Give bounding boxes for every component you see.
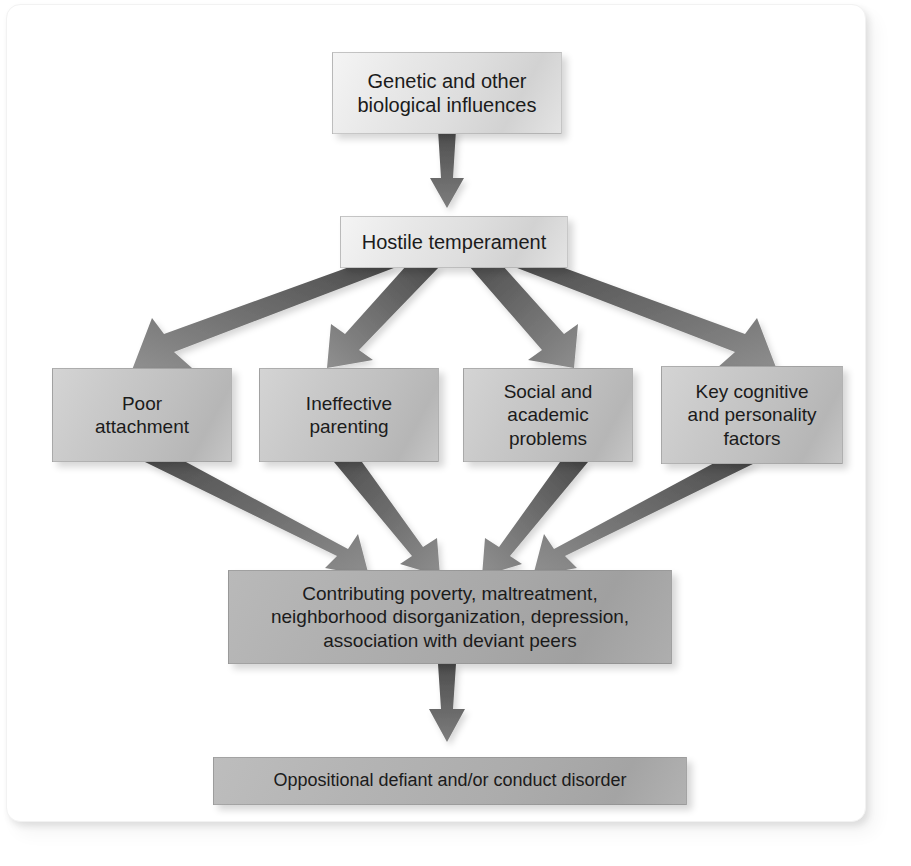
node-oppositional-defiant-conduct-disorder: Oppositional defiant and/or conduct diso… xyxy=(213,757,687,805)
node-contributing-factors: Contributing poverty, maltreatment, neig… xyxy=(228,570,672,664)
node-hostile-temperament: Hostile temperament xyxy=(340,216,568,268)
arrow-genetic-to-temperament xyxy=(430,130,464,208)
node-key-cognitive-personality-factors: Key cognitive and personality factors xyxy=(661,366,843,464)
arrow-contributing-to-outcome xyxy=(429,664,465,742)
node-ineffective-parenting: Ineffective parenting xyxy=(259,368,439,462)
figure-canvas: Genetic and other biological influences … xyxy=(0,0,911,866)
node-social-academic-problems: Social and academic problems xyxy=(463,368,633,462)
arrow-academic-to-contributing xyxy=(482,462,588,576)
node-poor-attachment: Poor attachment xyxy=(52,368,232,462)
arrow-attachment-to-contributing xyxy=(145,462,369,576)
node-genetic-biological-influences: Genetic and other biological influences xyxy=(332,52,562,134)
